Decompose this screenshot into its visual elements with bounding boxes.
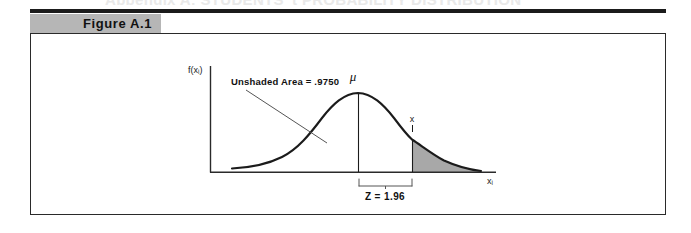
figure-label-band: Figure A.1 <box>30 14 161 34</box>
figure-panel <box>30 33 666 215</box>
figure-label-text: Figure A.1 <box>83 16 152 31</box>
figure-page: Appendix A: STUDENTS' t PROBABILITY DIST… <box>0 0 691 233</box>
ghost-page-header: Appendix A: STUDENTS' t PROBABILITY DIST… <box>105 0 575 5</box>
top-rule-divider <box>30 9 666 13</box>
